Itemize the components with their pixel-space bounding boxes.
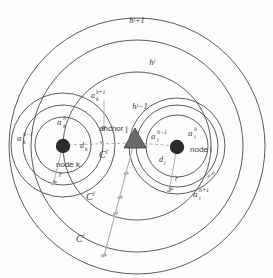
label-ai-h-minus-1: a i h−1 (151, 129, 167, 143)
svg-text:a: a (188, 128, 193, 138)
label-ai-h: a i h (188, 126, 197, 140)
label-radius-k: r (59, 170, 62, 179)
label-di: d i (159, 155, 166, 166)
label-ai-h-plus-1: a i h+1 (193, 187, 209, 201)
node-k-dot (56, 139, 70, 153)
label-ring-hj: hʲ (149, 57, 155, 67)
svg-text:k: k (85, 146, 88, 152)
label-radius-i: r (175, 174, 178, 183)
svg-text:h−1: h−1 (157, 129, 167, 135)
svg-text:k: k (96, 96, 99, 102)
svg-text:k: k (63, 123, 66, 129)
svg-text:h: h (194, 126, 197, 132)
label-node-k: node k (56, 160, 81, 169)
node-i-dot (170, 140, 184, 154)
cj-tick-marks (101, 136, 138, 257)
label-node-i: node i (190, 145, 212, 154)
label-dk: d k (80, 141, 88, 152)
svg-text:a: a (91, 91, 95, 100)
svg-text:h+1: h+1 (199, 187, 209, 193)
svg-text:C: C (86, 191, 93, 202)
figure-canvas: hʲ+1 hʲ hʲ−1 a k h−1 a k h a k h+1 a i h… (0, 0, 273, 278)
svg-text:a: a (57, 117, 62, 127)
svg-text:h−1: h−1 (23, 131, 33, 137)
label-anchor-j: anchor j (99, 124, 128, 133)
label-ring-hj-plus-1: hʲ+1 (129, 15, 145, 25)
svg-text:a: a (151, 131, 156, 141)
svg-text:j: j (92, 189, 95, 196)
svg-text:k: k (23, 139, 26, 145)
dashed-link-k-anchor (63, 143, 131, 145)
svg-text:a: a (193, 189, 198, 199)
diagram-svg: hʲ+1 hʲ hʲ−1 a k h−1 a k h a k h+1 a i h… (0, 0, 273, 278)
svg-text:h+1: h+1 (96, 89, 105, 95)
label-ring-hj-minus-1: hʲ−1 (132, 101, 148, 111)
svg-text:j: j (105, 147, 108, 154)
svg-text:i: i (157, 137, 159, 143)
label-ak-h-plus-1: a k h+1 (91, 89, 105, 103)
svg-text:i: i (194, 134, 196, 140)
label-cj-1: C j (99, 147, 108, 160)
svg-text:h: h (63, 115, 66, 121)
svg-text:i: i (199, 195, 201, 201)
svg-text:C: C (76, 233, 83, 244)
svg-text:j: j (82, 231, 85, 238)
svg-text:i: i (164, 160, 166, 166)
label-cj-3: C j (76, 231, 85, 244)
svg-text:a: a (17, 133, 22, 143)
svg-text:C: C (99, 149, 106, 160)
label-cj-2: C j (86, 189, 95, 202)
